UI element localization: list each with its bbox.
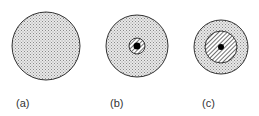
panel-c-label: (c) xyxy=(202,97,215,109)
black-core xyxy=(218,44,224,50)
black-core xyxy=(134,43,141,50)
panel-b xyxy=(106,15,168,77)
panel-b-label: (b) xyxy=(110,97,123,109)
panel-a-label: (a) xyxy=(16,97,29,109)
panel-a xyxy=(12,12,80,80)
outer-stippled-circle xyxy=(12,12,80,80)
diagram-canvas xyxy=(0,0,259,116)
panel-c xyxy=(194,20,248,74)
